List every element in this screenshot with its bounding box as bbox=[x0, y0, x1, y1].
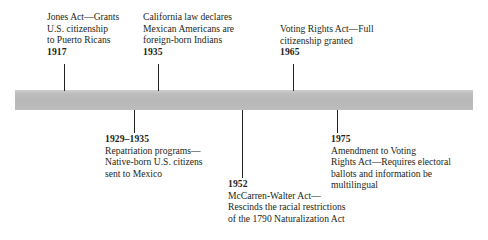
event-description-line: multilingual bbox=[331, 179, 451, 191]
event-year: 1929–1935 bbox=[105, 133, 203, 145]
event-year: 1965 bbox=[280, 46, 374, 58]
connector-line-1935 bbox=[158, 64, 159, 91]
event-description-line: Voting Rights Act—Full bbox=[280, 23, 374, 35]
event-year: 1917 bbox=[47, 46, 119, 58]
event-description-line: U.S. citizenship bbox=[47, 23, 119, 35]
event-description-line: citizenship granted bbox=[280, 35, 374, 47]
event-description-line: California law declares bbox=[143, 11, 234, 23]
event-description-line: to Puerto Ricans bbox=[47, 34, 119, 46]
event-description-line: Native-born U.S. citizens bbox=[105, 156, 203, 168]
event-description-line: ballots and information be bbox=[331, 168, 451, 180]
event-year: 1975 bbox=[331, 133, 451, 145]
connector-line-1965 bbox=[293, 64, 294, 91]
event-description-line: Jones Act—Grants bbox=[47, 11, 119, 23]
event-description-line: Amendment to Voting bbox=[331, 145, 451, 157]
event-description-line: Rights Act—Requires electoral bbox=[331, 156, 451, 168]
event-year: 1952 bbox=[228, 178, 346, 190]
connector-line-1929-1935 bbox=[134, 110, 135, 133]
event-description-line: Mexican Americans are bbox=[143, 23, 234, 35]
connector-line-1917 bbox=[64, 64, 65, 91]
event-description-line: Rescinds the racial restrictions bbox=[228, 201, 346, 213]
timeline-figure: Jones Act—GrantsU.S. citizenshipto Puert… bbox=[0, 0, 488, 240]
timeline-bar bbox=[15, 90, 473, 110]
timeline-event-1929-1935: 1929–1935Repatriation programs—Native-bo… bbox=[105, 133, 203, 179]
timeline-event-1965: Voting Rights Act—Fullcitizenship grante… bbox=[280, 23, 374, 58]
event-description-line: foreign-born Indians bbox=[143, 34, 234, 46]
connector-line-1952 bbox=[242, 110, 243, 178]
timeline-event-1975: 1975Amendment to VotingRights Act—Requir… bbox=[331, 133, 451, 191]
timeline-event-1952: 1952McCarren-Walter Act—Rescinds the rac… bbox=[228, 178, 346, 224]
timeline-event-1935: California law declaresMexican Americans… bbox=[143, 11, 234, 57]
event-description-line: of the 1790 Naturalization Act bbox=[228, 213, 346, 225]
event-description-line: McCarren-Walter Act— bbox=[228, 190, 346, 202]
event-description-line: Repatriation programs— bbox=[105, 145, 203, 157]
event-year: 1935 bbox=[143, 46, 234, 58]
connector-line-1975 bbox=[337, 110, 338, 133]
timeline-event-1917: Jones Act—GrantsU.S. citizenshipto Puert… bbox=[47, 11, 119, 57]
event-description-line: sent to Mexico bbox=[105, 168, 203, 180]
